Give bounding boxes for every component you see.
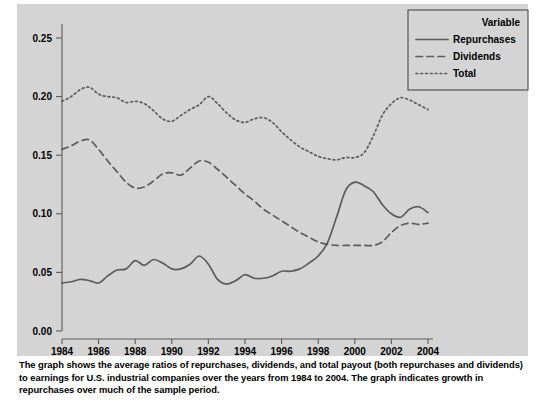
y-axis-tick-label: 0.00 xyxy=(33,326,53,337)
legend-title: Variable xyxy=(482,17,521,28)
x-axis-tick-label: 2004 xyxy=(417,346,440,357)
series-line-repurchases xyxy=(62,182,428,284)
chart-legend[interactable]: VariableRepurchasesDividendsTotal xyxy=(408,10,528,90)
data-series xyxy=(62,87,428,284)
x-axis-tick-label: 2002 xyxy=(380,346,403,357)
x-axis-tick-label: 1998 xyxy=(307,346,330,357)
series-line-total xyxy=(62,87,428,160)
y-axis-tick-label: 0.05 xyxy=(33,267,53,278)
legend-label-dividends[interactable]: Dividends xyxy=(453,51,501,62)
chart-svg: 0.000.050.100.150.200.251984198619881990… xyxy=(0,0,537,406)
y-axis-tick-label: 0.10 xyxy=(33,208,53,219)
x-axis-tick-label: 2000 xyxy=(344,346,367,357)
x-axis-tick-label: 1986 xyxy=(87,346,110,357)
figure-root: 0.000.050.100.150.200.251984198619881990… xyxy=(0,0,537,406)
legend-label-repurchases[interactable]: Repurchases xyxy=(453,34,516,45)
x-axis-tick-label: 1990 xyxy=(161,346,184,357)
x-axis-tick-label: 1984 xyxy=(51,346,74,357)
y-axis-tick-label: 0.20 xyxy=(33,91,53,102)
figure-caption: The graph shows the average ratios of re… xyxy=(19,359,531,397)
legend-label-total[interactable]: Total xyxy=(453,68,476,79)
y-axis-tick-label: 0.15 xyxy=(33,150,53,161)
x-axis-tick-label: 1996 xyxy=(270,346,293,357)
x-axis-tick-label: 1988 xyxy=(124,346,147,357)
x-axis-tick-label: 1994 xyxy=(234,346,257,357)
axes: 0.000.050.100.150.200.251984198619881990… xyxy=(33,24,440,357)
x-axis-tick-label: 1992 xyxy=(197,346,220,357)
y-axis-tick-label: 0.25 xyxy=(33,33,53,44)
